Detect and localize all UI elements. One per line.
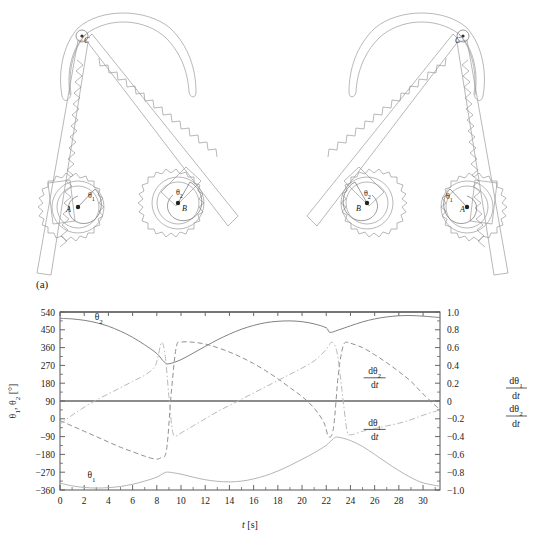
x-tick-label: 12	[200, 496, 210, 506]
y-right-tick-label: 0	[447, 397, 452, 407]
y-right-tick-label: 0.8	[447, 325, 459, 335]
mechanism-left-configuration: C A	[37, 13, 238, 275]
dtheta2-dt-axis-den: dt	[512, 418, 520, 429]
dtheta1-dt-axis-den: dt	[512, 390, 520, 401]
x-tick-label: 24	[346, 496, 356, 506]
gear-a-teeth-right	[441, 173, 507, 241]
y-right-tick-label: 0.2	[447, 379, 459, 389]
pivot-label-c-right: C	[455, 36, 461, 45]
gear-a-right	[441, 173, 507, 241]
x-tick-label: 6	[130, 496, 135, 506]
rack-teeth-vertical-right	[462, 60, 485, 247]
y-left-tick-label: 90	[46, 397, 56, 407]
gear-b-teeth-right	[341, 169, 407, 237]
y-right-tick-label: −0.4	[447, 432, 464, 442]
x-tick-label: 10	[176, 496, 186, 506]
curve-dtheta1-dt	[60, 342, 440, 436]
x-axis-title: t [s]	[242, 519, 258, 530]
y-right-tick-label: 0.4	[447, 361, 459, 371]
y-left-tick-label: 450	[41, 325, 56, 335]
bar-right-lower-right	[307, 34, 459, 226]
x-tick-label: 16	[249, 496, 259, 506]
plot-panel: 024681012141618202224262830 540450360270…	[0, 300, 545, 550]
y-left-tick-label: −180	[35, 450, 55, 460]
rack-teeth-diagonal-left	[99, 58, 217, 157]
y-right-tick-label: −1.0	[447, 486, 464, 496]
slider-block-diagonal-left	[161, 167, 201, 206]
x-tick-label: 8	[154, 496, 159, 506]
curve-annotations: θ2θ1dθ2dtdθ1dt	[87, 312, 385, 484]
bar-right-lower-left	[86, 34, 238, 226]
y-left-tick-label: 180	[41, 379, 56, 389]
rack-teeth-vertical-left	[60, 60, 83, 247]
x-tick-label: 14	[225, 496, 235, 506]
right-configuration-text: C A θ1 B θ2	[356, 36, 465, 214]
y-left-tick-label: ‒90	[40, 432, 56, 442]
slider-block-right-b	[344, 167, 384, 206]
x-tick-label: 30	[418, 496, 428, 506]
gear-a-center-left	[76, 205, 80, 209]
x-tick-label: 4	[106, 496, 111, 506]
rack-teeth-diagonal-right	[328, 58, 446, 157]
curve-theta2	[60, 316, 440, 364]
gear-b-angle-label-right: θ2	[364, 189, 371, 200]
dtheta1-dt-label-denominator: dt	[371, 432, 379, 442]
curve-theta1	[60, 437, 440, 488]
data-curves	[60, 316, 440, 488]
y-right-tick-label: −0.6	[447, 450, 464, 460]
gear-b-cam-profile-left	[167, 182, 201, 221]
mechanism-svg: C A	[0, 0, 545, 300]
y-right-tick-label: −0.8	[447, 468, 464, 478]
bar-left-lower-right	[457, 40, 508, 275]
bar-left-lower-left	[37, 40, 88, 275]
gear-b-label-right: B	[356, 204, 361, 213]
pivot-center-c-right	[461, 34, 464, 37]
gear-a-left: A θ1	[38, 173, 104, 241]
panel-a-label: (a)	[36, 278, 48, 290]
mechanism-panel: C A	[0, 0, 545, 300]
gear-a-label-left: A	[65, 205, 71, 214]
x-tick-label: 2	[82, 496, 87, 506]
theta1-label: θ1	[87, 470, 96, 484]
gear-b-label-left: B	[182, 204, 187, 213]
x-tick-label: 0	[58, 496, 63, 506]
y-left-tick-label: −270	[35, 468, 55, 478]
y-axis-right-title: dθ1 dt dθ2 dt	[506, 375, 527, 429]
y-left-tick-label: 540	[41, 308, 56, 318]
reference-lines	[60, 312, 440, 401]
figure-root: C A	[0, 0, 545, 550]
gear-b-angle-label-left: θ2	[176, 188, 183, 199]
x-axis-ticks: 024681012141618202224262830	[58, 312, 436, 506]
y-axis-left-title: θ1, θ2 [°]	[7, 384, 22, 419]
y-left-tick-label: 270	[41, 361, 56, 371]
y-right-tick-label: 1.0	[447, 308, 459, 318]
x-tick-label: 22	[321, 496, 331, 506]
gear-b-center-right	[365, 201, 369, 205]
theta2-label: θ2	[95, 312, 104, 326]
plot-svg: 024681012141618202224262830 540450360270…	[0, 300, 545, 550]
y-left-tick-label: 360	[41, 343, 56, 353]
gear-a-center-right	[465, 205, 469, 209]
y-left-tick-label: −360	[35, 486, 55, 496]
gear-b-center-left	[176, 201, 180, 205]
gear-b-teeth-left	[138, 169, 204, 237]
mechanism-right-configuration	[307, 13, 508, 275]
gear-b-right	[341, 169, 407, 237]
gear-b-cam-profile-right	[343, 182, 377, 221]
y-right-tick-label: −0.2	[447, 414, 464, 424]
gear-b-left: B θ2	[138, 169, 204, 237]
x-tick-label: 18	[273, 496, 283, 506]
y-left-tick-label: 0	[50, 414, 55, 424]
x-tick-label: 28	[394, 496, 404, 506]
gear-a-teeth-left	[38, 173, 104, 241]
gear-a-angle-label-left: θ1	[88, 191, 95, 202]
x-tick-label: 26	[370, 496, 380, 506]
y-right-tick-label: 0.6	[447, 343, 459, 353]
dtheta2-dt-label-denominator: dt	[371, 380, 379, 390]
gear-a-label-right: A	[459, 205, 465, 214]
x-tick-label: 20	[297, 496, 307, 506]
